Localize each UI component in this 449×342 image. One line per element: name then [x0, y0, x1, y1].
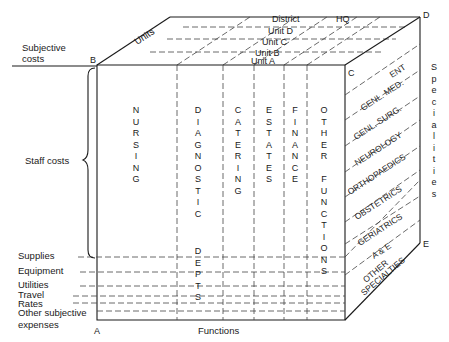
corner-c: C — [348, 68, 355, 78]
row-equipment: Equipment — [18, 265, 64, 276]
row-supplies: Supplies — [18, 250, 55, 261]
unit-a: Unit A — [251, 56, 275, 66]
function-finance: FINANCE — [292, 105, 299, 184]
subjective-label-1: Subjective — [22, 42, 66, 53]
subjective-label-2: costs — [22, 53, 44, 64]
function-diagnostic: DIAGNOSTIC — [194, 105, 201, 219]
corner-b: B — [90, 55, 96, 65]
corner-d: D — [423, 10, 430, 20]
cost-cube-diagram: B A C D E Units Functions Subjective cos… — [0, 0, 449, 342]
function-nursing: NURSING — [132, 105, 139, 184]
function-catering: CATERING — [234, 105, 241, 196]
functions-axis-label: Functions — [198, 325, 239, 336]
corner-a: A — [94, 326, 100, 336]
cube-outline — [12, 17, 420, 320]
staff-costs-brace — [83, 68, 95, 258]
function-other: OTHER — [320, 105, 327, 161]
unit-district: District — [272, 14, 300, 24]
unit-c: Unit C — [262, 37, 288, 47]
specialities-axis-label: Specialities — [431, 62, 437, 199]
unit-d: Unit D — [268, 26, 294, 36]
staff-costs-label: Staff costs — [25, 155, 69, 166]
unit-hq: HQ — [336, 14, 350, 24]
spec-a-and-e: A & E — [370, 241, 394, 261]
row-other-2: expenses — [18, 319, 59, 330]
function-functions: FUNCTIONS — [320, 174, 327, 276]
function-depts: DEPTS — [195, 246, 202, 302]
function-estates: ESTATES — [266, 105, 272, 184]
speciality-labels: ENT GENL. MED. GENL. SURG. NEUROLOGY ORT… — [346, 62, 408, 298]
row-other-1: Other subjective — [18, 307, 87, 318]
spec-ent: ENT — [388, 62, 408, 80]
corner-e: E — [423, 239, 429, 249]
